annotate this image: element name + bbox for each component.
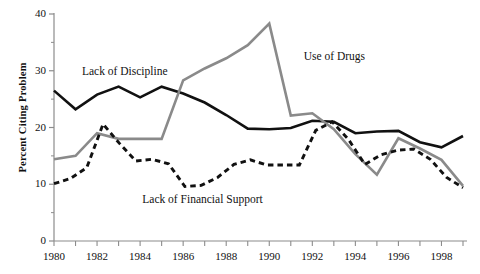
series-annotation: Use of Drugs	[304, 50, 365, 62]
series-group	[54, 24, 463, 188]
y-axis-tick-label: 10	[20, 177, 46, 189]
y-axis-tick-label: 30	[20, 64, 46, 76]
x-axis-tick-label: 1998	[425, 250, 457, 262]
series-annotation: Lack of Discipline	[82, 65, 168, 77]
x-axis-tick-label: 1994	[339, 250, 371, 262]
x-axis-tick-label: 1992	[296, 250, 328, 262]
chart-plot-area	[0, 0, 480, 274]
series-line-1	[54, 24, 463, 186]
y-axis-tick-label: 0	[20, 234, 46, 246]
x-axis-tick-label: 1988	[210, 250, 242, 262]
x-axis-tick-label: 1996	[382, 250, 414, 262]
x-axis-tick-label: 1984	[124, 250, 156, 262]
x-axis-tick-label: 1990	[253, 250, 285, 262]
y-axis-tick-label: 20	[20, 121, 46, 133]
x-axis-tick-label: 1986	[167, 250, 199, 262]
y-axis-tick-label: 40	[20, 7, 46, 19]
x-axis-tick-label: 1980	[38, 250, 70, 262]
x-axis-tick-label: 1982	[81, 250, 113, 262]
chart-container: Percent Citing Problem 01020304019801982…	[0, 0, 480, 274]
series-annotation: Lack of Financial Support	[142, 193, 262, 205]
